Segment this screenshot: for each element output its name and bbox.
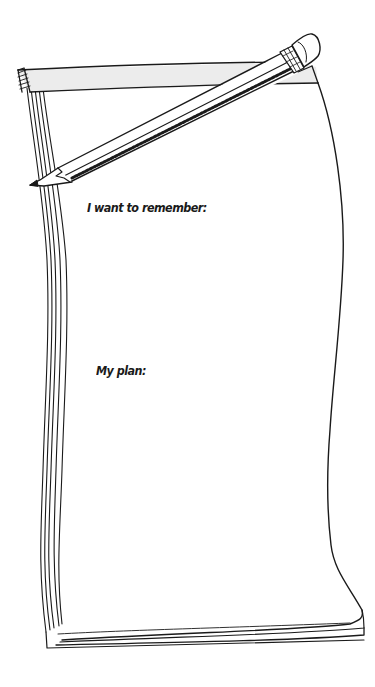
notepad-page-stack [27, 88, 67, 632]
prompt-label-plan: My plan: [96, 363, 146, 378]
pencil-icon [30, 34, 320, 186]
notepad-illustration [0, 0, 375, 687]
prompt-label-remember: I want to remember: [87, 200, 207, 215]
